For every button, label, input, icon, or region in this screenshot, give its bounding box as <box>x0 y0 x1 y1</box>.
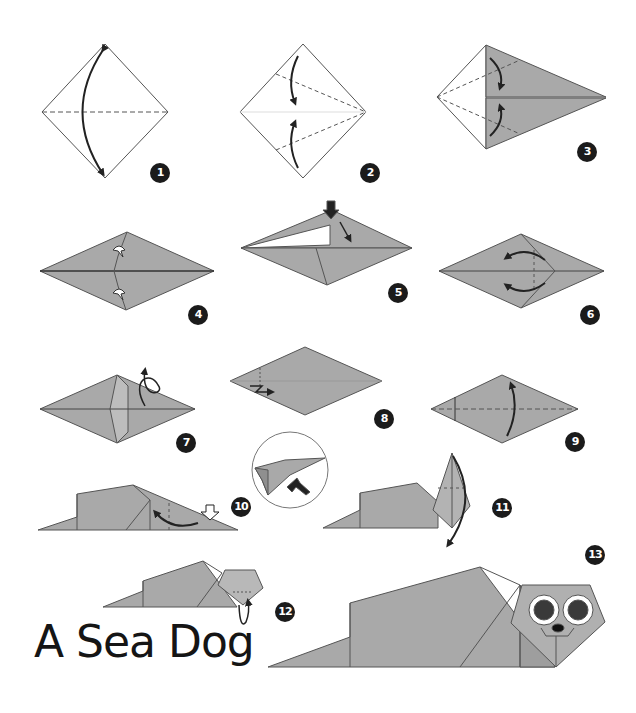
step-badge-1: 1 <box>150 163 170 183</box>
step-11-diagram <box>323 453 470 545</box>
step-badge-8: 8 <box>374 409 394 429</box>
step-10-inset <box>252 432 328 508</box>
step-4-diagram <box>40 232 214 310</box>
step-2-diagram <box>240 44 366 178</box>
step-8-diagram <box>230 347 382 415</box>
step-badge-11: 11 <box>492 498 512 518</box>
step-badge-4: 4 <box>188 305 208 325</box>
origami-diagram <box>0 0 636 713</box>
step-badge-5: 5 <box>388 283 408 303</box>
step-13-finished-model <box>268 567 605 667</box>
step-badge-9: 9 <box>565 432 585 452</box>
step-badge-6: 6 <box>580 305 600 325</box>
step-badge-13: 13 <box>585 545 605 565</box>
step-badge-2: 2 <box>360 163 380 183</box>
step-badge-3: 3 <box>577 142 597 162</box>
step-1-diagram <box>42 44 168 178</box>
step-6-diagram <box>439 234 604 308</box>
step-12-diagram <box>103 561 263 624</box>
step-badge-12: 12 <box>275 602 295 622</box>
step-5-diagram <box>241 201 412 285</box>
step-7-diagram <box>40 370 195 443</box>
step-9-diagram <box>431 375 578 443</box>
step-badge-10: 10 <box>231 497 251 517</box>
page-title: A Sea Dog <box>34 620 254 664</box>
step-badge-7: 7 <box>176 433 196 453</box>
step-10-diagram <box>38 485 238 530</box>
step-3-diagram <box>437 45 606 149</box>
